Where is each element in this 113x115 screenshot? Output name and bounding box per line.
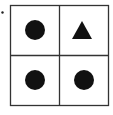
circle-icon [74, 70, 94, 90]
shape-grid-diagram [0, 0, 113, 115]
cell-bottom-right [74, 70, 94, 90]
circle-icon [25, 20, 45, 40]
triangle-icon [72, 21, 92, 39]
circle-icon [25, 70, 45, 90]
cell-top-left [25, 20, 45, 40]
cell-top-right [72, 21, 92, 39]
bullet-dot-icon [1, 11, 3, 13]
cell-bottom-left [25, 70, 45, 90]
